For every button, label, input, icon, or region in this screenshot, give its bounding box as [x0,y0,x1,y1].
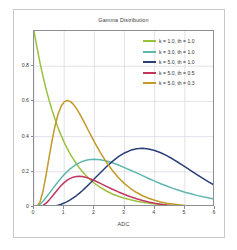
chart-legend: k = 1.0, th = 1.0k = 3.0, th = 1.0k = 5.… [143,36,215,89]
chart-figure: Gamma Distribution 00.20.40.60.8 0123456… [0,0,237,250]
x-tick-mark [154,206,155,209]
x-tick-mark [184,206,185,209]
x-tick-label: 4 [146,209,162,215]
legend-label: k = 5.0, th = 0.3 [159,80,195,86]
legend-color-swatch [143,82,156,84]
legend-color-swatch [143,40,156,42]
chart-title: Gamma Distribution [33,17,214,23]
legend-item[interactable]: k = 5.0, th = 0.5 [143,68,215,79]
x-tick-label: 3 [116,209,132,215]
legend-item[interactable]: k = 1.0, th = 1.0 [143,36,215,47]
x-tick-label: 1 [55,209,71,215]
y-tick-mark [31,65,34,66]
legend-color-swatch [143,51,156,53]
legend-item[interactable]: k = 5.0, th = 0.3 [143,78,215,89]
legend-item[interactable]: k = 5.0, th = 1.0 [143,57,215,68]
y-tick-mark [31,100,34,101]
x-tick-mark [93,206,94,209]
y-tick-label: 0.6 [7,97,29,103]
legend-label: k = 5.0, th = 0.5 [159,70,195,76]
y-tick-label: 0.2 [7,168,29,174]
legend-label: k = 3.0, th = 1.0 [159,49,195,55]
legend-color-swatch [143,61,156,63]
legend-item[interactable]: k = 3.0, th = 1.0 [143,47,215,58]
x-tick-mark [214,206,215,209]
y-tick-mark [31,171,34,172]
x-tick-label: 6 [206,209,222,215]
y-tick-label: 0.8 [7,62,29,68]
x-tick-mark [124,206,125,209]
x-tick-label: 5 [176,209,192,215]
x-tick-label: 0 [25,209,41,215]
legend-color-swatch [143,72,156,74]
y-tick-label: 0.4 [7,133,29,139]
legend-label: k = 5.0, th = 1.0 [159,59,195,65]
x-tick-mark [63,206,64,209]
legend-label: k = 1.0, th = 1.0 [159,38,195,44]
x-tick-label: 2 [85,209,101,215]
curve [34,176,214,206]
y-tick-mark [31,136,34,137]
x-tick-mark [33,206,34,209]
x-axis-label: ADC [33,221,214,227]
